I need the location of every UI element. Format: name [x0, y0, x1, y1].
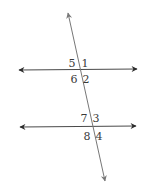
angle-label-5: 5: [69, 58, 76, 69]
angle-label-6: 6: [71, 74, 78, 85]
angle-label-7: 7: [81, 113, 88, 124]
diagram-canvas: [0, 0, 143, 193]
angle-label-4: 4: [96, 131, 103, 142]
angle-label-3: 3: [93, 113, 100, 124]
angle-label-2: 2: [83, 74, 90, 85]
angle-label-8: 8: [84, 131, 91, 142]
parallel-lines-diagram: 5 1 6 2 7 3 8 4: [0, 0, 143, 193]
bottom-parallel-line: [20, 126, 136, 127]
transversal-line: [68, 13, 105, 181]
angle-label-1: 1: [82, 58, 89, 69]
top-parallel-line: [19, 69, 137, 70]
